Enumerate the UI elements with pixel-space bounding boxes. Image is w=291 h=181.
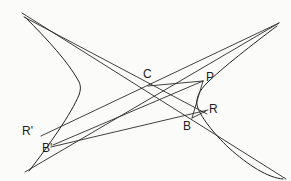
geometry-figure: C P R B R' B' <box>0 0 291 181</box>
point-label-P: P <box>206 71 214 83</box>
point-label-B-prime: B' <box>42 142 52 154</box>
chord-Rprime-to-topright <box>41 23 279 136</box>
point-label-R: R <box>209 103 218 115</box>
point-label-C: C <box>143 68 152 80</box>
chord-topleft-through-C-to-R <box>24 17 207 114</box>
point-label-B: B <box>183 120 191 132</box>
asymptote-lower-left-to-upper-right <box>25 23 279 172</box>
point-label-R-prime: R' <box>22 125 33 137</box>
hyperbola-left-branch <box>25 17 80 171</box>
